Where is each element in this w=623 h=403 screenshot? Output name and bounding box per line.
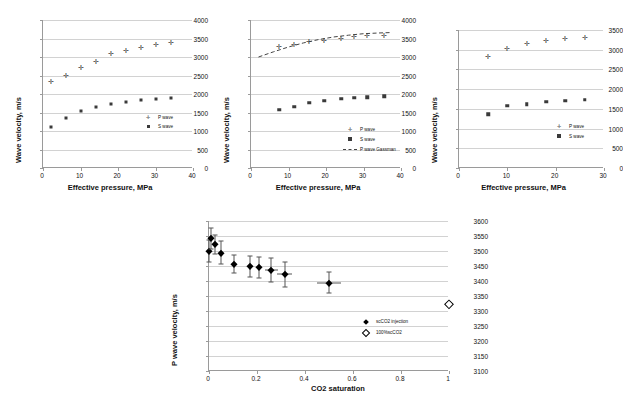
data-point-s-wave bbox=[64, 116, 67, 119]
y-tick bbox=[206, 326, 209, 327]
data-point-s-wave bbox=[486, 112, 490, 116]
square-marker-icon bbox=[141, 122, 155, 131]
y-tick bbox=[40, 20, 43, 21]
x-tick-label: 30 bbox=[359, 172, 366, 179]
data-point-s-wave bbox=[79, 110, 82, 113]
error-bar-cap bbox=[327, 272, 332, 273]
data-point-s-wave bbox=[94, 106, 97, 109]
legend-label: 100%scCO2 bbox=[376, 330, 402, 335]
x-tick-label: 10 bbox=[76, 172, 83, 179]
data-point-s-wave bbox=[307, 101, 311, 105]
y-tick bbox=[206, 281, 209, 282]
x-tick-label: 30 bbox=[599, 172, 606, 179]
data-point-s-wave bbox=[506, 104, 510, 108]
y-tick-label: 3000 bbox=[378, 54, 416, 61]
y-tick-label: 2500 bbox=[378, 72, 416, 79]
x-tick bbox=[556, 168, 557, 171]
gridline bbox=[209, 251, 448, 252]
panel-d-x-axis-title: CO2 saturation bbox=[203, 384, 473, 393]
y-tick-label: 0 bbox=[378, 165, 416, 172]
y-tick-label: 500 bbox=[378, 146, 416, 153]
y-tick bbox=[40, 57, 43, 58]
error-bar-cap bbox=[282, 261, 287, 262]
y-tick-label: 2000 bbox=[170, 91, 208, 98]
y-tick bbox=[456, 109, 459, 110]
y-tick-label: 3500 bbox=[442, 248, 488, 255]
legend-entry-p-wave: ✛ P wave bbox=[141, 113, 173, 122]
panel-a-x-axis-title: Effective pressure, MPa bbox=[25, 183, 195, 192]
x-tick-label: 10 bbox=[284, 172, 291, 179]
error-bar-cap bbox=[327, 293, 332, 294]
data-point-p-wave: ✛ bbox=[524, 40, 530, 47]
x-tick-label: 20 bbox=[321, 172, 328, 179]
x-tick-label: 1 bbox=[446, 375, 450, 382]
data-point-s-wave bbox=[322, 99, 326, 103]
y-tick bbox=[456, 129, 459, 130]
y-tick-label: 3550 bbox=[442, 233, 488, 240]
error-bar-cap bbox=[232, 255, 237, 256]
error-bar-cap bbox=[232, 273, 237, 274]
error-bar-cap bbox=[208, 248, 213, 249]
panel-c-legend: ✛ P wave S wave bbox=[552, 121, 584, 141]
legend-entry-p-wave: ✛ P wave bbox=[552, 121, 584, 131]
y-tick-label: 3000 bbox=[170, 54, 208, 61]
error-bar-cap bbox=[219, 263, 224, 264]
data-point-s-wave bbox=[49, 125, 52, 128]
x-tick-label: 0.4 bbox=[299, 375, 308, 382]
legend-label: S wave bbox=[360, 137, 375, 142]
data-point-s-wave bbox=[139, 98, 142, 101]
y-tick bbox=[40, 150, 43, 151]
data-point-s-wave bbox=[583, 98, 587, 102]
y-tick-label: 0 bbox=[170, 165, 208, 172]
y-tick-label: 2500 bbox=[170, 72, 208, 79]
y-tick-label: 3600 bbox=[442, 218, 488, 225]
x-tick bbox=[209, 371, 210, 374]
y-tick bbox=[206, 341, 209, 342]
gridline bbox=[209, 296, 448, 297]
legend-entry-scco2-injection: scCO2 injection bbox=[359, 316, 408, 327]
y-tick-label: 500 bbox=[585, 145, 623, 152]
y-tick bbox=[206, 221, 209, 222]
cross-marker-icon: ✛ bbox=[552, 122, 566, 131]
x-tick bbox=[81, 168, 82, 171]
y-tick-label: 3000 bbox=[585, 46, 623, 53]
data-point-p-wave: ✛ bbox=[351, 33, 357, 40]
x-tick-label: 0 bbox=[206, 375, 210, 382]
y-tick bbox=[40, 131, 43, 132]
y-tick bbox=[456, 50, 459, 51]
y-tick-label: 1000 bbox=[585, 125, 623, 132]
y-tick bbox=[206, 296, 209, 297]
error-bar-cap bbox=[208, 227, 213, 228]
square-marker-icon bbox=[343, 135, 357, 144]
y-tick-label: 3200 bbox=[442, 338, 488, 345]
data-point-scco2-injection bbox=[247, 263, 253, 269]
data-point-s-wave bbox=[292, 105, 296, 109]
data-point-p-wave: ✛ bbox=[306, 38, 312, 45]
data-point-p-wave: ✛ bbox=[63, 71, 69, 78]
panel-d-p-wave-velocity-vs-co2-saturation: P wave velocity, m/s CO2 saturation bbox=[158, 208, 488, 403]
y-tick-label: 3500 bbox=[378, 35, 416, 42]
error-bar-cap bbox=[282, 287, 287, 288]
data-point-scco2-injection bbox=[212, 241, 218, 247]
y-tick-label: 2500 bbox=[585, 66, 623, 73]
data-point-p-wave: ✛ bbox=[138, 43, 144, 50]
x-tick-label: 10 bbox=[503, 172, 510, 179]
y-tick-label: 0 bbox=[585, 165, 623, 172]
error-bar-cap bbox=[247, 276, 252, 277]
data-point-s-wave bbox=[277, 108, 281, 112]
legend-entry-100-percent-scco2: 100%scCO2 bbox=[359, 327, 408, 338]
legend-label: P wave bbox=[569, 124, 584, 129]
data-point-p-wave: ✛ bbox=[504, 45, 510, 52]
open-diamond-marker-icon bbox=[359, 328, 373, 337]
x-tick-label: 0.8 bbox=[395, 375, 404, 382]
y-tick bbox=[40, 39, 43, 40]
x-tick bbox=[364, 168, 365, 171]
y-tick-label: 1500 bbox=[378, 109, 416, 116]
legend-label: scCO2 injection bbox=[376, 319, 408, 324]
panel-c-y-axis-title: Wave velocity, m/s bbox=[430, 97, 439, 163]
y-tick bbox=[40, 113, 43, 114]
x-tick bbox=[353, 371, 354, 374]
gridline bbox=[209, 326, 448, 327]
data-point-scco2-injection bbox=[281, 271, 287, 277]
data-point-p-wave: ✛ bbox=[321, 36, 327, 43]
